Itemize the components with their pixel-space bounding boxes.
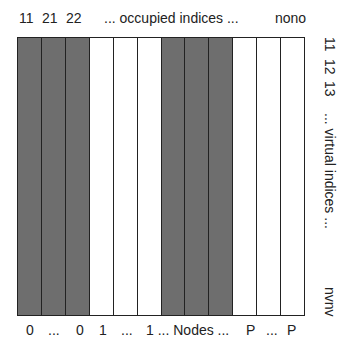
grid-column-free [281, 38, 304, 315]
grid-column-occupied [162, 38, 186, 315]
right-label-nvnv: nvnv [322, 287, 338, 317]
grid-column-occupied [185, 38, 209, 315]
grid-column-free [257, 38, 281, 315]
bottom-label-dots3: ... [266, 322, 278, 338]
grid-column-occupied [209, 38, 233, 315]
grid-column-occupied [18, 38, 42, 315]
grid-column-free [90, 38, 114, 315]
bottom-label-0a: 0 [26, 322, 34, 338]
bottom-label-dots2: ... [121, 322, 133, 338]
right-label-virtual-indices: ... virtual indices ... [322, 113, 338, 229]
bottom-label-pa: P [246, 322, 255, 338]
right-label-13: 13 [322, 81, 338, 97]
right-axis-labels: 11 12 13 ... virtual indices ... nvnv [316, 37, 338, 316]
top-label-occupied-indices: ... occupied indices ... [104, 10, 239, 26]
grid-column-free [233, 38, 257, 315]
grid-column-free [114, 38, 138, 315]
top-label-21: 21 [42, 10, 58, 26]
grid-column-occupied [42, 38, 66, 315]
right-label-12: 12 [322, 59, 338, 75]
right-label-11: 11 [322, 37, 338, 52]
bottom-label-nodes: 1 ... Nodes ... [146, 322, 229, 338]
bottom-label-1a: 1 [99, 322, 107, 338]
bottom-label-0b: 0 [76, 322, 84, 338]
grid-column-occupied [66, 38, 90, 315]
grid-column-free [138, 38, 162, 315]
top-label-nono: nono [275, 10, 306, 26]
bottom-label-dots1: ... [48, 322, 60, 338]
top-label-22: 22 [66, 10, 82, 26]
top-label-11: 11 [19, 10, 34, 26]
bottom-label-pb: P [287, 322, 296, 338]
index-grid [17, 37, 305, 316]
